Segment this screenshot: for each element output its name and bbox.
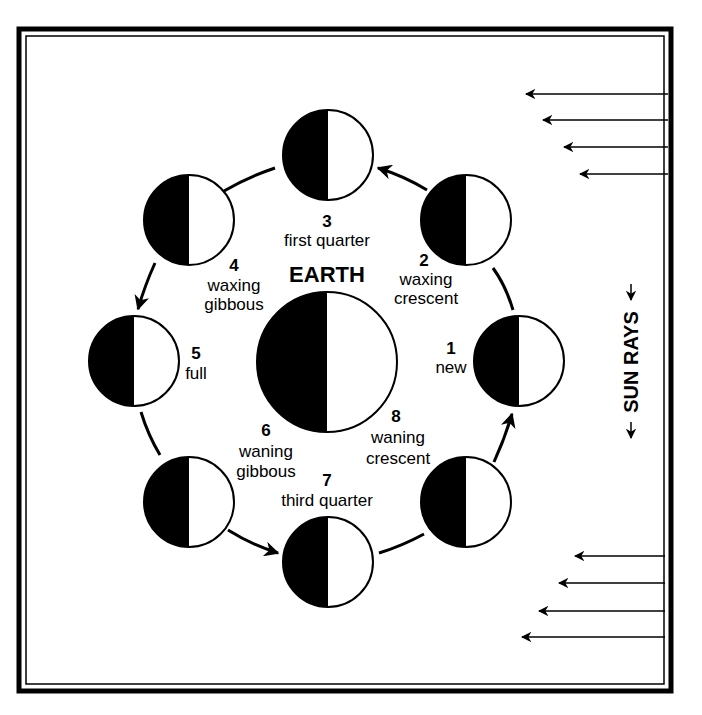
moon-7 <box>283 517 373 607</box>
moon-4 <box>144 175 234 265</box>
sun-rays-bottom <box>522 556 665 637</box>
orbit-arrow-8-1 <box>494 414 512 462</box>
phase-number: 6 <box>261 421 270 440</box>
moon-3 <box>283 110 373 200</box>
orbit-arrow-4-5 <box>138 263 155 309</box>
phase-label-4: 4 waxing gibbous <box>204 256 264 314</box>
phase-number: 8 <box>391 407 400 426</box>
phase-number: 4 <box>229 256 239 275</box>
phase-number: 5 <box>191 344 200 363</box>
phase-name: third quarter <box>281 491 373 510</box>
sun-rays-text: SUN RAYS <box>620 311 642 413</box>
moon-8 <box>421 457 511 547</box>
moon-2 <box>421 175 511 265</box>
orbit-arrow-6-7 <box>228 530 278 553</box>
sun-rays-top <box>526 94 668 174</box>
phase-name: crescent <box>366 449 431 468</box>
phase-label-5: 5 full <box>185 344 207 383</box>
phase-name: full <box>185 364 207 383</box>
phase-number: 2 <box>419 251 428 270</box>
phase-label-3: 3 first quarter <box>284 212 370 250</box>
phase-name: crescent <box>394 289 459 308</box>
phase-label-6: 6 waning gibbous <box>236 421 296 481</box>
phase-name: new <box>435 358 467 377</box>
orbit-arc-3-4 <box>224 168 275 191</box>
phase-name: waxing <box>399 270 453 289</box>
moon-phase-diagram: SUN RAYS EARTH <box>0 0 702 715</box>
moon-6 <box>144 457 234 547</box>
phase-name: gibbous <box>204 295 264 314</box>
phase-number: 7 <box>322 471 331 490</box>
orbit-arc-1-2 <box>493 268 513 310</box>
phase-name: gibbous <box>236 462 296 481</box>
sun-rays-label: SUN RAYS <box>620 284 642 438</box>
phase-name: first quarter <box>284 231 370 250</box>
orbit-arc-7-8 <box>379 534 424 553</box>
phase-number: 1 <box>446 339 455 358</box>
phase-name: waning <box>238 442 293 461</box>
earth-label: EARTH <box>289 262 365 287</box>
moon-5 <box>89 316 179 406</box>
earth: EARTH <box>257 262 397 432</box>
phase-name: waxing <box>207 276 261 295</box>
phase-label-1: 1 new <box>435 339 467 377</box>
phase-label-8: 8 waning crescent <box>366 407 431 468</box>
phase-name: waning <box>370 428 425 447</box>
orbit-arc-5-6 <box>141 412 160 455</box>
moon-1 <box>474 316 564 406</box>
phase-number: 3 <box>322 212 331 231</box>
orbit-arrow-2-3 <box>378 168 427 190</box>
